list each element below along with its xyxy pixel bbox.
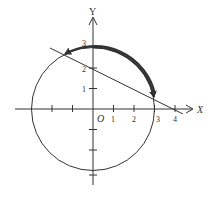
x-tick-2: 2 — [132, 115, 136, 124]
y-tick-2: 2 — [82, 65, 86, 74]
x-tick-4: 4 — [173, 115, 177, 124]
x-tick-3: 3 — [156, 115, 160, 124]
origin-label: O — [97, 113, 104, 124]
x-axis-label: X — [196, 104, 204, 115]
y-tick-3: 3 — [82, 39, 86, 48]
y-axis — [89, 17, 97, 185]
secant-line — [50, 48, 183, 114]
y-axis-label: Y — [89, 6, 96, 17]
x-tick-1: 1 — [111, 115, 115, 124]
coordinate-diagram: Y X O 1 2 3 4 1 2 3 — [0, 0, 216, 197]
y-tick-1: 1 — [82, 85, 86, 94]
